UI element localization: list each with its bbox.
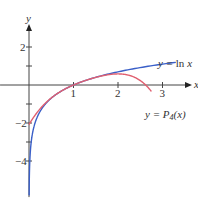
y-tick-label: 2 (20, 41, 26, 53)
p4-label: y = P4(x) (144, 108, 186, 122)
y-tick-label: −4 (15, 155, 27, 167)
ln-curve (29, 62, 176, 195)
y-axis-arrow-icon (26, 24, 32, 31)
y-axis-label: y (25, 12, 31, 24)
x-axis-label: x (193, 78, 198, 90)
labels: y = ln x y = P4(x) (144, 57, 192, 122)
p4-curve (29, 74, 151, 125)
x-axis-arrow-icon (185, 82, 192, 88)
y-tick-label: −2 (15, 117, 27, 129)
x-tick-label: 3 (160, 87, 166, 99)
chart-plot: xy123−4−22 y = ln x y = P4(x) (0, 0, 198, 203)
ln-label: y = ln x (157, 57, 192, 69)
x-tick-label: 2 (115, 87, 121, 99)
x-tick-label: 1 (71, 87, 77, 99)
curves (29, 62, 176, 195)
